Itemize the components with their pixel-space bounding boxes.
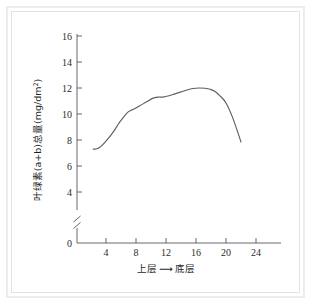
y-tick-label-8: 8 [67,135,72,146]
y-tick-label-14: 14 [62,57,72,68]
x-axis-title-arrow: ⟶ [159,263,173,274]
y-tick-label-12: 12 [62,83,72,94]
x-tick-label-24: 24 [251,247,261,258]
y-tick-labels: 16 14 12 10 8 6 4 0 [62,31,72,249]
y-tick-marks [77,36,82,192]
x-tick-label-12: 12 [161,247,171,258]
y-axis-title-prefix: 叶绿素(a+b)总量(mg/dm [32,87,43,202]
figure-root: 16 14 12 10 8 6 4 0 4 8 [0,0,311,304]
x-axis-title-left: 上层 [137,263,157,274]
y-tick-label-6: 6 [67,161,72,172]
x-tick-label-20: 20 [221,247,231,258]
x-tick-label-4: 4 [104,247,109,258]
x-tick-marks [106,238,256,243]
y-tick-label-4: 4 [67,187,72,198]
data-series-line [93,88,241,149]
x-tick-label-8: 8 [134,247,139,258]
plot-area: 16 14 12 10 8 6 4 0 4 8 [0,0,311,304]
y-axis-title: 叶绿素(a+b)总量(mg/dm2) [32,79,43,202]
y-tick-label-0: 0 [67,238,72,249]
x-tick-label-16: 16 [191,247,201,258]
y-axis-title-suffix: ) [32,79,43,83]
x-tick-labels: 4 8 12 16 20 24 [104,247,262,258]
y-axis-break-icon [74,216,81,229]
x-axis-title-right: 底层 [175,263,195,274]
y-tick-label-16: 16 [62,31,72,42]
x-axis-title: 上层⟶底层 [137,263,195,274]
y-tick-label-10: 10 [62,109,72,120]
line-chart: 16 14 12 10 8 6 4 0 4 8 [0,0,311,304]
